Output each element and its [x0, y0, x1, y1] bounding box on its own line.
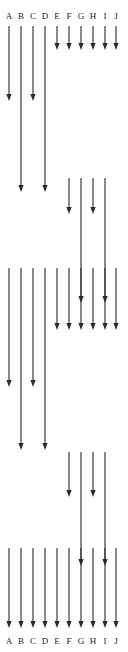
arrow-i [102, 26, 107, 50]
arrow-head [90, 207, 95, 214]
arrow-j [113, 268, 118, 330]
arrow-head [90, 43, 95, 50]
arrow-head [6, 380, 11, 387]
arrow-f [66, 268, 71, 330]
arrow-head [78, 323, 83, 330]
column-label-top-f: F [63, 11, 75, 21]
column-label-bottom-c: C [27, 636, 39, 646]
arrow-head [6, 621, 11, 628]
arrow-head [54, 323, 59, 330]
arrow-e [54, 26, 59, 50]
arrow-f [66, 452, 71, 497]
arrow-b [18, 26, 23, 192]
arrow-f [66, 548, 71, 628]
arrow-i [102, 268, 107, 330]
arrow-head [90, 323, 95, 330]
arrow-b [18, 548, 23, 628]
arrow-head [54, 43, 59, 50]
arrow-head [113, 621, 118, 628]
arrow-canvas [0, 0, 128, 652]
arrow-diagram-figure: ABCDEFGHIJ ABCDEFGHIJ [0, 0, 128, 652]
arrow-head [102, 323, 107, 330]
arrow-head [102, 43, 107, 50]
arrow-c [30, 548, 35, 628]
column-label-bottom-j: J [110, 636, 122, 646]
arrow-a [6, 268, 11, 387]
arrow-g [78, 26, 83, 50]
arrow-head [102, 621, 107, 628]
arrow-e [54, 548, 59, 628]
arrow-head [66, 207, 71, 214]
arrow-h [90, 452, 95, 497]
arrow-c [30, 268, 35, 387]
arrow-head [66, 621, 71, 628]
arrow-head [42, 443, 47, 450]
column-label-bottom-d: D [39, 636, 51, 646]
arrow-head [18, 185, 23, 192]
column-label-bottom-g: G [75, 636, 87, 646]
arrow-f [66, 26, 71, 50]
column-label-top-b: B [15, 11, 27, 21]
column-label-bottom-h: H [87, 636, 99, 646]
arrow-head [66, 323, 71, 330]
arrow-c [30, 26, 35, 101]
column-label-bottom-f: F [63, 636, 75, 646]
arrow-head [42, 621, 47, 628]
arrow-g [78, 268, 83, 330]
arrow-head [54, 621, 59, 628]
arrow-d [42, 548, 47, 628]
arrow-head [66, 43, 71, 50]
arrow-e [54, 268, 59, 330]
arrow-head [78, 621, 83, 628]
arrow-head [78, 43, 83, 50]
column-label-top-e: E [51, 11, 63, 21]
arrow-head [66, 490, 71, 497]
arrow-j [113, 548, 118, 628]
arrow-b [18, 268, 23, 450]
column-label-bottom-a: A [3, 636, 15, 646]
arrow-f [66, 178, 71, 214]
arrow-h [90, 268, 95, 330]
arrow-h [90, 26, 95, 50]
column-label-top-g: G [75, 11, 87, 21]
column-label-top-c: C [27, 11, 39, 21]
column-label-top-j: J [110, 11, 122, 21]
arrow-h [90, 178, 95, 214]
arrow-head [90, 621, 95, 628]
arrow-a [6, 26, 11, 101]
column-label-bottom-e: E [51, 636, 63, 646]
arrow-j [113, 26, 118, 50]
arrow-a [6, 548, 11, 628]
column-label-top-d: D [39, 11, 51, 21]
arrow-head [30, 380, 35, 387]
column-label-top-h: H [87, 11, 99, 21]
arrow-head [30, 621, 35, 628]
arrow-head [113, 43, 118, 50]
arrow-head [30, 94, 35, 101]
column-label-bottom-b: B [15, 636, 27, 646]
arrow-head [6, 94, 11, 101]
column-label-top-a: A [3, 11, 15, 21]
arrow-head [42, 185, 47, 192]
arrow-head [90, 490, 95, 497]
arrow-d [42, 26, 47, 192]
arrow-head [113, 323, 118, 330]
arrow-h [90, 548, 95, 628]
arrow-d [42, 268, 47, 450]
arrow-head [18, 621, 23, 628]
arrow-head [18, 443, 23, 450]
